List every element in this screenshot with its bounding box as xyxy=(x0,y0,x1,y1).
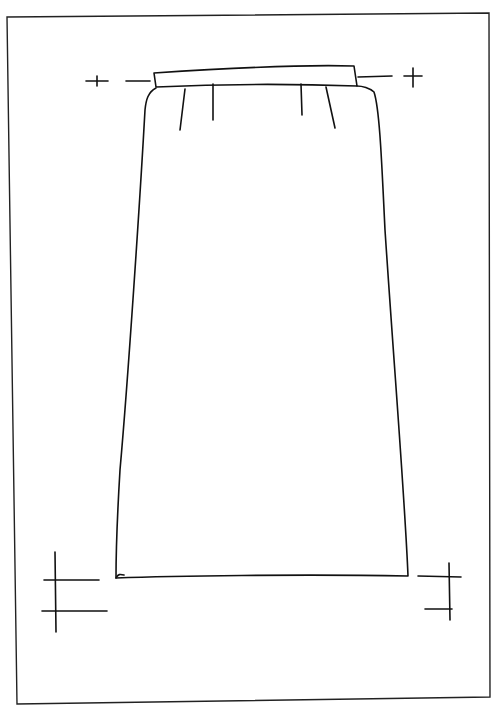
hem-marker-right xyxy=(418,563,461,620)
dart-right-outer xyxy=(326,87,335,128)
waist-marker-left xyxy=(86,76,150,86)
skirt-technical-drawing xyxy=(0,0,500,721)
dart-left-outer xyxy=(180,89,185,130)
dart-right-inner xyxy=(301,84,302,115)
waistband xyxy=(154,66,357,87)
drawing-frame xyxy=(7,13,490,704)
waist-marker-right xyxy=(358,68,422,87)
skirt-body xyxy=(116,86,408,578)
hem-marker-left xyxy=(42,552,107,632)
